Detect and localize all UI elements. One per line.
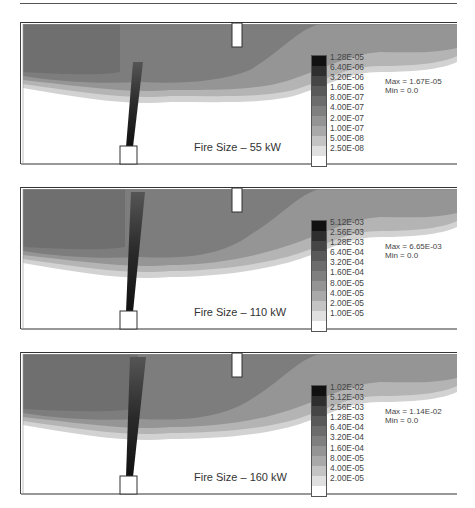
legend-swatch bbox=[312, 231, 326, 241]
range-stats: Max = 1.67E-05Min = 0.0 bbox=[385, 77, 442, 95]
legend-level-label: 3.20E-04 bbox=[330, 257, 364, 267]
legend-swatch bbox=[312, 406, 326, 416]
legend-swatch bbox=[312, 271, 326, 281]
legend-swatch bbox=[312, 66, 326, 76]
legend-swatch bbox=[312, 96, 326, 106]
legend-level-label: 2.56E-03 bbox=[330, 402, 364, 412]
legend-level-label: 1.00E-05 bbox=[330, 308, 364, 318]
legend-level-label: 5.00E-08 bbox=[330, 133, 364, 143]
legend-colorbar bbox=[311, 55, 327, 167]
legend-swatch bbox=[312, 321, 326, 331]
legend-level-label: 8.00E-05 bbox=[330, 453, 364, 463]
legend-level-label: 2.00E-07 bbox=[330, 113, 364, 123]
legend-swatch bbox=[312, 221, 326, 231]
contour-panel-160kw: 1.02E-025.12E-032.56E-031.28E-036.40E-04… bbox=[20, 352, 457, 495]
legend-colorbar bbox=[311, 220, 327, 332]
contour-panel-55kw: 1.28E-056.40E-063.20E-061.60E-068.00E-07… bbox=[20, 22, 457, 165]
legend-level-label: 8.00E-05 bbox=[330, 278, 364, 288]
legend-level-label: 2.50E-08 bbox=[330, 143, 364, 153]
fire-size-caption: Fire Size – 55 kW bbox=[194, 141, 281, 153]
legend-swatch bbox=[312, 436, 326, 446]
legend-swatch bbox=[312, 136, 326, 146]
max-value-label: Max = 6.65E-03 bbox=[385, 242, 442, 251]
legend-swatch bbox=[312, 116, 326, 126]
legend-labels: 5.12E-032.56E-031.28E-036.40E-043.20E-04… bbox=[330, 217, 364, 318]
legend-level-label: 2.00E-05 bbox=[330, 473, 364, 483]
legend-labels: 1.28E-056.40E-063.20E-061.60E-068.00E-07… bbox=[330, 52, 364, 153]
legend-level-label: 1.00E-07 bbox=[330, 123, 364, 133]
legend-level-label: 1.60E-04 bbox=[330, 443, 364, 453]
legend-swatch bbox=[312, 146, 326, 156]
legend-swatch bbox=[312, 301, 326, 311]
legend-swatch bbox=[312, 156, 326, 166]
legend-swatch bbox=[312, 311, 326, 321]
legend-swatch bbox=[312, 241, 326, 251]
legend-swatch bbox=[312, 76, 326, 86]
legend-swatch bbox=[312, 466, 326, 476]
fire-size-caption: Fire Size – 160 kW bbox=[194, 471, 287, 483]
legend-level-label: 2.56E-03 bbox=[330, 227, 364, 237]
legend-level-label: 6.40E-04 bbox=[330, 422, 364, 432]
legend-swatch bbox=[312, 86, 326, 96]
legend-level-label: 5.12E-03 bbox=[330, 392, 364, 402]
legend-level-label: 1.02E-02 bbox=[330, 382, 364, 392]
legend-level-label: 4.00E-05 bbox=[330, 288, 364, 298]
legend-swatch bbox=[312, 386, 326, 396]
legend-swatch bbox=[312, 251, 326, 261]
legend-swatch bbox=[312, 416, 326, 426]
legend-swatch bbox=[312, 456, 326, 466]
legend-swatch bbox=[312, 106, 326, 116]
legend-level-label: 6.40E-04 bbox=[330, 247, 364, 257]
range-stats: Max = 6.65E-03Min = 0.0 bbox=[385, 242, 442, 260]
legend-swatch bbox=[312, 426, 326, 436]
legend-level-label: 1.60E-06 bbox=[330, 82, 364, 92]
fire-size-caption: Fire Size – 110 kW bbox=[194, 306, 286, 318]
legend-level-label: 3.20E-06 bbox=[330, 72, 364, 82]
legend-swatch bbox=[312, 261, 326, 271]
legend-level-label: 5.12E-03 bbox=[330, 217, 364, 227]
legend-level-label: 1.28E-03 bbox=[330, 412, 364, 422]
legend-swatch bbox=[312, 291, 326, 301]
max-value-label: Max = 1.67E-05 bbox=[385, 77, 442, 86]
legend-level-label: 6.40E-06 bbox=[330, 62, 364, 72]
contour-panel-110kw: 5.12E-032.56E-031.28E-036.40E-043.20E-04… bbox=[20, 187, 457, 330]
legend-swatch bbox=[312, 446, 326, 456]
legend-swatch bbox=[312, 281, 326, 291]
legend-labels: 1.02E-025.12E-032.56E-031.28E-036.40E-04… bbox=[330, 382, 364, 483]
max-value-label: Max = 1.14E-02 bbox=[385, 407, 442, 416]
legend-swatch bbox=[312, 396, 326, 406]
legend-swatch bbox=[312, 126, 326, 136]
legend-level-label: 4.00E-05 bbox=[330, 463, 364, 473]
range-stats: Max = 1.14E-02Min = 0.0 bbox=[385, 407, 442, 425]
legend-level-label: 8.00E-07 bbox=[330, 92, 364, 102]
min-value-label: Min = 0.0 bbox=[385, 86, 442, 95]
legend-swatch bbox=[312, 486, 326, 496]
legend-colorbar bbox=[311, 385, 327, 497]
legend-swatch bbox=[312, 56, 326, 66]
legend-level-label: 1.28E-03 bbox=[330, 237, 364, 247]
legend-level-label: 2.00E-05 bbox=[330, 298, 364, 308]
legend-level-label: 1.60E-04 bbox=[330, 267, 364, 277]
legend-level-label: 4.00E-07 bbox=[330, 102, 364, 112]
top-rule bbox=[20, 3, 457, 4]
legend-level-label: 1.28E-05 bbox=[330, 52, 364, 62]
legend-level-label: 3.20E-04 bbox=[330, 432, 364, 442]
legend-swatch bbox=[312, 476, 326, 486]
min-value-label: Min = 0.0 bbox=[385, 251, 442, 260]
min-value-label: Min = 0.0 bbox=[385, 416, 442, 425]
